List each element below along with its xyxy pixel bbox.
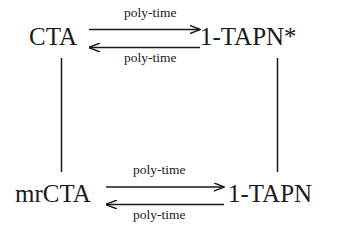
edge-label-bottom-backward: poly-time [133,208,186,222]
node-label-1-tapn-star: 1-TAPN* [200,24,297,49]
edge-label-top-forward: poly-time [124,6,177,20]
node-label-cta: CTA [29,24,77,49]
diagram-canvas: CTA 1-TAPN* mrCTA 1-TAPN poly-time poly-… [0,0,348,243]
edge-label-top-backward: poly-time [124,51,177,65]
edge-label-bottom-forward: poly-time [133,163,186,177]
node-label-mrcta: mrCTA [15,181,91,206]
node-label-1-tapn: 1-TAPN [228,181,312,206]
